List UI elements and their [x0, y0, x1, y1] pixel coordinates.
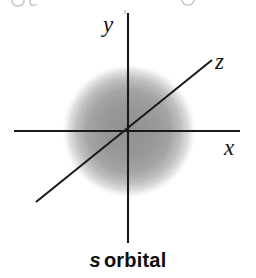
z-axis-label: z: [215, 50, 224, 73]
orbital-diagram: [0, 0, 256, 278]
caption-orbital-symbol: s: [90, 249, 104, 271]
caption-orbital-word: orbital: [104, 249, 167, 271]
s-orbital-figure: y z x sorbital: [0, 0, 256, 278]
x-axis-label: x: [224, 136, 234, 159]
figure-caption: sorbital: [0, 249, 256, 272]
y-axis-label: y: [103, 13, 113, 36]
